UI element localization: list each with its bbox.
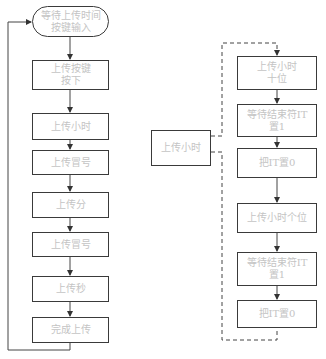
node-upload-colon-1: 上传冒号 xyxy=(32,150,109,175)
node-upload-colon-2: 上传冒号 xyxy=(32,232,109,257)
node-label: 完成上传 xyxy=(51,324,91,336)
node-label: 上传冒号 xyxy=(51,239,91,251)
node-label: 上传按键 按下 xyxy=(51,63,91,87)
node-label: 上传小时 xyxy=(161,142,201,154)
node-label: 把IT置0 xyxy=(259,308,296,320)
node-label: 等待结束符IT 置1 xyxy=(247,109,308,133)
node-label: 上传小时 xyxy=(51,121,91,133)
node-upload-second: 上传秒 xyxy=(32,276,109,302)
node-upload-hour-units: 上传小时个位 xyxy=(237,203,317,233)
node-upload-minute: 上传分 xyxy=(32,192,109,218)
node-upload-hour: 上传小时 xyxy=(32,113,109,140)
node-label: 等待结束符IT 置1 xyxy=(247,257,308,281)
node-label: 等待上传时间 按键输入 xyxy=(41,10,101,34)
node-label: 上传小时个位 xyxy=(247,212,307,224)
node-wait-ti-set-1: 等待结束符IT 置1 xyxy=(237,104,317,137)
node-label: 上传秒 xyxy=(56,283,86,295)
node-wait-key-input: 等待上传时间 按键输入 xyxy=(32,6,109,37)
node-label: 上传分 xyxy=(56,199,86,211)
node-upload-key-pressed: 上传按键 按下 xyxy=(32,60,109,90)
node-label: 上传小时 十位 xyxy=(257,61,297,85)
node-wait-ti-set-2: 等待结束符IT 置1 xyxy=(237,252,317,286)
node-label: 上传冒号 xyxy=(51,157,91,169)
node-upload-hour-tens: 上传小时 十位 xyxy=(237,56,317,90)
node-label: 把IT置0 xyxy=(259,157,296,169)
node-upload-complete: 完成上传 xyxy=(32,317,109,343)
node-detail-source-upload-hour: 上传小时 xyxy=(151,130,211,166)
node-clear-ti-1: 把IT置0 xyxy=(237,148,317,178)
node-clear-ti-2: 把IT置0 xyxy=(237,300,317,328)
